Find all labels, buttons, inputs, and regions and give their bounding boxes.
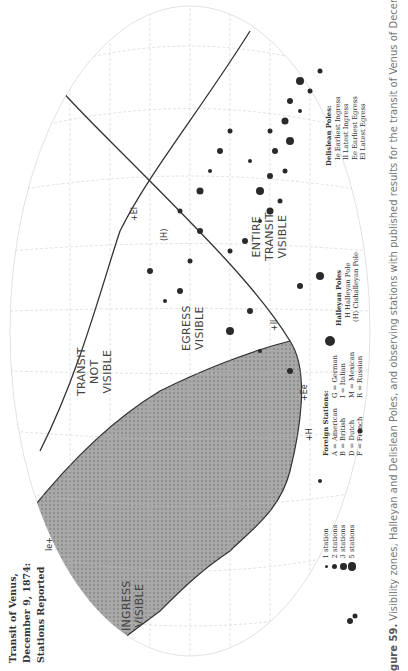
station-dot-icon (325, 565, 328, 568)
egress-visible-label: EGRESS VISIBLE (180, 305, 206, 351)
figure-caption: gure 59. Visibility zones, Halleyan and … (388, 0, 399, 671)
pole-h-cis: (H) (160, 229, 169, 241)
legend-size-2: 2 stations (331, 525, 340, 571)
ingress-visible-label: INGRESS VISIBLE (120, 580, 146, 631)
transit-not-visible-zone (15, 341, 302, 641)
station-dot-icon (332, 564, 337, 569)
legend-size-1: 1 station (322, 525, 331, 571)
pole-el: +El (130, 207, 139, 221)
legend-size-5: 5 stations (348, 525, 357, 571)
legend-halleyan-poles: Halleyan Poles H Halleyan Pole (H) Cisha… (335, 252, 361, 326)
station-dot-icon (348, 563, 357, 572)
pole-il: +Il (270, 320, 279, 331)
legend-station-sizes: 1 station 2 stations 3 stations 5 statio… (322, 525, 356, 571)
figure-number: gure 59. (388, 624, 399, 671)
caption-text: Visibility zones, Halleyan and Delislean… (388, 0, 399, 624)
entire-transit-visible-label: ENTIRE TRANSIT VISIBLE (250, 212, 289, 261)
page-canvas: Transit of Venus, December 9, 1874: Stat… (0, 0, 408, 671)
station-dot-icon (340, 564, 347, 571)
transit-not-visible-label: TRANSIT NOT VISIBLE (75, 347, 114, 396)
ingress-boundary-curve (30, 51, 290, 341)
legend-delislean-poles: Delislean Poles: Ie Earliest Ingress Il … (325, 96, 368, 166)
pole-h: +H (305, 428, 314, 441)
legend-foreign-stations: Foreign Stations: A = American B = Briti… (322, 352, 365, 456)
pole-ie: Ie+ (45, 537, 54, 551)
pole-ee: +Ee (300, 384, 309, 401)
legend-size-3: 3 stations (339, 525, 348, 571)
